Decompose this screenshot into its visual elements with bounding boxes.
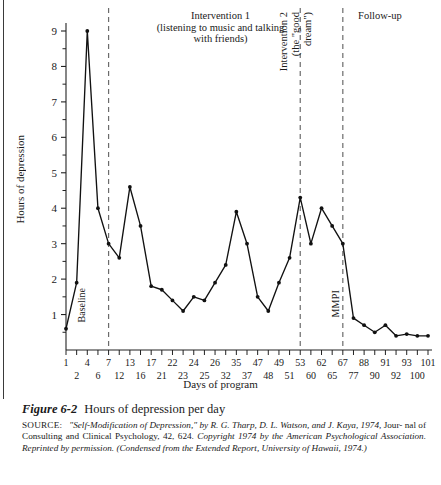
x-tick-label-bottom: 77 <box>348 370 358 381</box>
x-tick-label-bottom: 6 <box>95 370 100 381</box>
data-point <box>277 281 281 285</box>
mmpi-annotation: MMPI <box>330 290 342 317</box>
x-tick-label-top: 22 <box>167 357 177 368</box>
y-axis-title: Hours of depression <box>14 135 26 224</box>
data-point <box>160 288 164 292</box>
figure-title-line: Figure 6-2Hours of depression per day <box>22 402 426 417</box>
data-point <box>117 256 121 260</box>
x-tick-label-top: 24 <box>189 357 199 368</box>
y-tick-label: 1 <box>52 309 58 321</box>
x-tick-label-top: 62 <box>317 357 327 368</box>
phase-label-intervention-2-line3: dream") <box>302 12 314 46</box>
data-point <box>298 196 302 200</box>
data-point <box>384 323 388 327</box>
x-tick-label-bottom: 2 <box>74 370 79 381</box>
x-tick-label-top: 13 <box>125 357 135 368</box>
data-point <box>394 334 398 338</box>
phase-label-intervention-2-line1: Intervention 2 <box>278 12 290 71</box>
x-tick-label-top: 35 <box>231 357 241 368</box>
data-point <box>330 224 334 228</box>
x-tick-label-bottom: 32 <box>221 370 231 381</box>
y-tick-label: 3 <box>52 238 58 250</box>
x-tick-label-top: 67 <box>338 357 348 368</box>
figure-page: 123456789 Intervention 1 (listening to m… <box>0 0 441 485</box>
x-tick-label-top: 17 <box>146 357 156 368</box>
data-point <box>373 330 377 334</box>
x-tick-label-top: 53 <box>295 357 305 368</box>
x-tick-label-bottom: 51 <box>285 370 295 381</box>
data-point <box>309 242 313 246</box>
data-point <box>192 295 196 299</box>
x-tick-label-bottom: 37 <box>242 370 252 381</box>
x-tick-label-top: 93 <box>402 357 412 368</box>
data-point <box>256 295 260 299</box>
data-point <box>288 256 292 260</box>
x-tick-label-top: 49 <box>274 357 284 368</box>
data-point <box>245 242 249 246</box>
data-point <box>149 284 153 288</box>
data-point <box>234 210 238 214</box>
source-citation-roman-1: Jour- <box>384 420 403 430</box>
figure-source-note: SOURCE: "Self-Modification of Depression… <box>22 420 426 454</box>
data-point <box>224 263 228 267</box>
chart-figure: 123456789 Intervention 1 (listening to m… <box>0 0 441 398</box>
y-tick-label: 8 <box>52 60 58 72</box>
data-point <box>203 298 207 302</box>
x-tick-label-top: 88 <box>359 357 369 368</box>
x-tick-label-top: 101 <box>421 357 436 368</box>
x-tick-label-top: 91 <box>380 357 390 368</box>
figure-caption: Figure 6-2Hours of depression per day SO… <box>22 402 426 454</box>
depression-line-chart: 123456789 <box>0 0 441 398</box>
x-tick-label-bottom: 21 <box>157 370 167 381</box>
figure-number: Figure 6-2 <box>22 402 77 416</box>
data-point <box>320 206 324 210</box>
figure-title-text: Hours of depression per day <box>77 402 225 416</box>
data-point <box>171 298 175 302</box>
x-tick-label-bottom: 12 <box>114 370 124 381</box>
source-citation-italic-1: "Self-Modification of Depression," by R.… <box>69 420 381 430</box>
data-point <box>352 316 356 320</box>
data-point <box>426 334 430 338</box>
x-tick-label-bottom: 60 <box>306 370 316 381</box>
y-tick-label: 5 <box>52 167 58 179</box>
source-lead: SOURCE: <box>22 420 62 430</box>
x-tick-label-top: 4 <box>85 357 90 368</box>
x-tick-label-bottom: 65 <box>327 370 337 381</box>
data-point <box>107 242 111 246</box>
y-tick-label: 2 <box>52 273 58 285</box>
data-point <box>96 206 100 210</box>
data-point <box>64 327 68 331</box>
data-point <box>128 185 132 189</box>
y-tick-label: 4 <box>52 202 58 214</box>
x-tick-label-bottom: 48 <box>263 370 273 381</box>
x-tick-label-top: 7 <box>106 357 111 368</box>
x-tick-label-bottom: 23 <box>178 370 188 381</box>
baseline-annotation: Baseline <box>76 288 88 322</box>
data-point <box>266 309 270 313</box>
y-tick-label: 6 <box>52 131 58 143</box>
data-point <box>415 334 419 338</box>
phase3-line: Follow-up <box>330 10 430 22</box>
data-point <box>213 281 217 285</box>
data-point <box>139 224 143 228</box>
data-point <box>85 29 89 33</box>
y-tick-label: 9 <box>52 25 58 37</box>
data-line <box>66 31 428 336</box>
x-tick-label-bottom: 16 <box>136 370 146 381</box>
x-tick-label-bottom: 92 <box>391 370 401 381</box>
phase-label-follow-up: Follow-up <box>330 10 430 22</box>
x-tick-label-bottom: 100 <box>410 370 425 381</box>
data-point <box>75 281 79 285</box>
x-tick-label-top: 47 <box>253 357 263 368</box>
x-tick-label-top: 26 <box>210 357 220 368</box>
y-tick-label: 7 <box>52 96 58 108</box>
x-tick-label-bottom: 90 <box>370 370 380 381</box>
data-point <box>405 332 409 336</box>
data-point <box>362 323 366 327</box>
phase-label-intervention-2-line2: (the "good <box>290 12 302 56</box>
data-point <box>341 242 345 246</box>
x-tick-label-top: 1 <box>64 357 69 368</box>
data-point <box>181 309 185 313</box>
x-tick-label-bottom: 25 <box>199 370 209 381</box>
